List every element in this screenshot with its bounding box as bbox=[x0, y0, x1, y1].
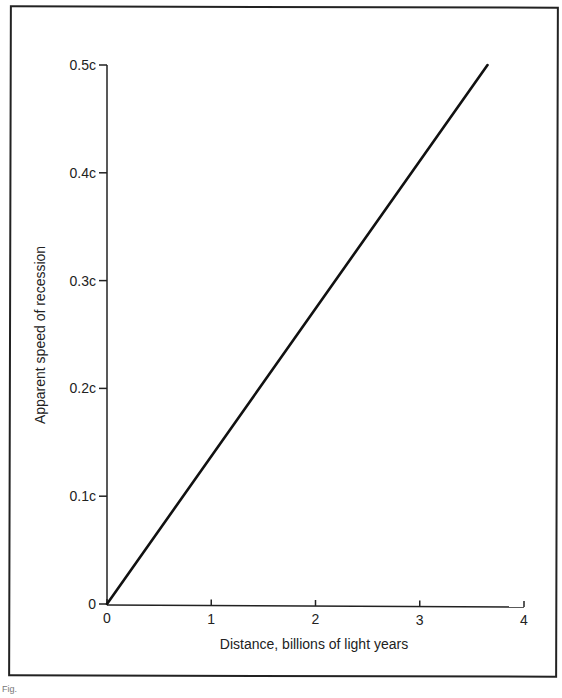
y-tick-label: 0.4c bbox=[70, 165, 96, 181]
x-tick-label: 4 bbox=[520, 612, 528, 628]
y-tick-label: 0.1c bbox=[70, 488, 96, 504]
x-tick-label: 3 bbox=[416, 612, 424, 628]
figure-caption: Fig. bbox=[2, 684, 17, 694]
y-tick-label: 0.2c bbox=[70, 380, 96, 396]
x-ticks: 01234 bbox=[103, 599, 528, 628]
x-tick-label: 1 bbox=[207, 611, 215, 627]
hubble-chart: 00.1c0.2c0.3c0.4c0.5c 01234 Distance, bi… bbox=[0, 0, 562, 698]
y-axis-title: Apparent speed of recession bbox=[32, 246, 48, 424]
x-tick-label: 0 bbox=[103, 610, 111, 626]
x-axis-title: Distance, billions of light years bbox=[220, 636, 408, 652]
data-line bbox=[107, 65, 488, 604]
x-tick-label: 2 bbox=[312, 611, 320, 627]
y-tick-label: 0.5c bbox=[70, 57, 96, 73]
y-tick-label: 0 bbox=[88, 596, 96, 612]
y-tick-label: 0.3c bbox=[70, 273, 96, 289]
y-ticks: 00.1c0.2c0.3c0.4c0.5c bbox=[70, 57, 107, 612]
